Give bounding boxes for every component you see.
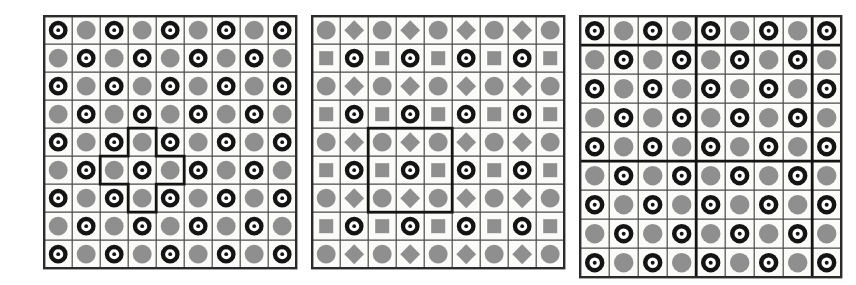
cell-ring-dot-r4-c8 — [245, 105, 264, 124]
cell-ring-dot-r3-c1 — [49, 77, 68, 96]
cell-gray-circle-r4-c9 — [273, 105, 292, 124]
cell-gray-circle-r7-c9 — [541, 189, 560, 208]
cell-gray-circle-r6-c7 — [759, 166, 778, 185]
cell-gray-circle-r8-c9 — [817, 224, 836, 243]
cell-gray-circle-r6-c1 — [49, 161, 68, 180]
cell-ring-dot-r5-c5 — [701, 137, 720, 156]
cell-gray-circle-r4-c7 — [759, 108, 778, 127]
cell-ring-dot-r1-c3 — [105, 21, 124, 40]
cell-gray-square-r2-c5 — [431, 51, 445, 65]
cell-ring-dot-r6-c8 — [513, 161, 532, 180]
cell-gray-circle-r4-c1 — [49, 105, 68, 124]
cell-ring-dot-r8-c8 — [513, 217, 532, 236]
cell-gray-circle-r7-c6 — [189, 189, 208, 208]
cell-gray-square-r2-c9 — [543, 51, 557, 65]
cell-gray-circle-r6-c7 — [217, 161, 236, 180]
cell-gray-circle-r3-c4 — [133, 77, 152, 96]
cell-gray-square-r6-c9 — [543, 163, 557, 177]
cell-gray-circle-r7-c4 — [133, 189, 152, 208]
cell-gray-circle-r4-c9 — [817, 108, 836, 127]
cell-gray-circle-r4-c7 — [217, 105, 236, 124]
cell-ring-dot-r4-c2 — [345, 105, 364, 124]
cell-gray-circle-r2-c5 — [701, 50, 720, 69]
cell-ring-dot-r4-c6 — [730, 108, 749, 127]
cell-gray-circle-r1-c7 — [485, 21, 504, 40]
cell-ring-dot-r7-c9 — [817, 195, 836, 214]
cell-gray-circle-r1-c8 — [788, 21, 807, 40]
cell-ring-dot-r1-c3 — [643, 21, 662, 40]
cell-ring-dot-r2-c4 — [672, 50, 691, 69]
cell-gray-circle-r5-c9 — [541, 133, 560, 152]
cell-gray-circle-r7-c8 — [245, 189, 264, 208]
cell-gray-circle-r9-c8 — [788, 253, 807, 272]
cell-gray-circle-r5-c5 — [429, 133, 448, 152]
cell-gray-circle-r2-c1 — [49, 49, 68, 68]
cell-ring-dot-r6-c4 — [401, 161, 420, 180]
cell-ring-dot-r3-c3 — [643, 79, 662, 98]
cell-gray-circle-r4-c5 — [161, 105, 180, 124]
cell-gray-circle-r2-c3 — [643, 50, 662, 69]
cell-gray-square-r6-c5 — [431, 163, 445, 177]
panel-left — [42, 14, 298, 270]
cell-ring-dot-r9-c5 — [701, 253, 720, 272]
cell-ring-dot-r9-c5 — [161, 245, 180, 264]
cell-gray-circle-r7-c6 — [730, 195, 749, 214]
cell-ring-dot-r8-c2 — [77, 217, 96, 236]
cell-gray-circle-r2-c7 — [217, 49, 236, 68]
cell-gray-circle-r5-c2 — [614, 137, 633, 156]
cell-layer — [585, 21, 836, 272]
cell-gray-circle-r5-c6 — [189, 133, 208, 152]
cell-ring-dot-r2-c8 — [788, 50, 807, 69]
cell-gray-circle-r7-c8 — [788, 195, 807, 214]
cell-gray-circle-r9-c4 — [133, 245, 152, 264]
cell-gray-square-r4-c1 — [319, 107, 333, 121]
cell-gray-square-r6-c7 — [487, 163, 501, 177]
cell-ring-dot-r3-c7 — [217, 77, 236, 96]
cell-gray-circle-r1-c1 — [317, 21, 336, 40]
cell-ring-dot-r4-c6 — [457, 105, 476, 124]
cell-ring-dot-r5-c9 — [817, 137, 836, 156]
cell-gray-circle-r3-c5 — [429, 77, 448, 96]
cell-gray-circle-r2-c3 — [105, 49, 124, 68]
cell-ring-dot-r3-c9 — [273, 77, 292, 96]
cell-gray-circle-r6-c3 — [105, 161, 124, 180]
cell-gray-circle-r6-c9 — [273, 161, 292, 180]
cell-gray-circle-r4-c1 — [585, 108, 604, 127]
cell-gray-circle-r3-c7 — [485, 77, 504, 96]
cell-gray-circle-r2-c1 — [585, 50, 604, 69]
cell-gray-circle-r1-c2 — [77, 21, 96, 40]
cell-ring-dot-r3-c5 — [701, 79, 720, 98]
cell-ring-dot-r4-c2 — [77, 105, 96, 124]
cell-ring-dot-r4-c4 — [401, 105, 420, 124]
cell-ring-dot-r2-c6 — [457, 49, 476, 68]
cell-ring-dot-r9-c7 — [759, 253, 778, 272]
cell-ring-dot-r8-c8 — [245, 217, 264, 236]
cell-gray-circle-r9-c3 — [373, 245, 392, 264]
cell-gray-circle-r7-c3 — [373, 189, 392, 208]
cell-gray-circle-r3-c4 — [672, 79, 691, 98]
cell-gray-circle-r9-c5 — [429, 245, 448, 264]
cell-ring-dot-r8-c2 — [614, 224, 633, 243]
cell-gray-circle-r4-c3 — [105, 105, 124, 124]
cell-gray-circle-r9-c1 — [317, 245, 336, 264]
cell-ring-dot-r1-c7 — [759, 21, 778, 40]
cell-ring-dot-r8-c4 — [401, 217, 420, 236]
cell-gray-square-r2-c1 — [319, 51, 333, 65]
cell-gray-square-r8-c9 — [543, 219, 557, 233]
cell-gray-circle-r7-c4 — [672, 195, 691, 214]
cell-gray-circle-r9-c9 — [541, 245, 560, 264]
cell-ring-dot-r8-c4 — [133, 217, 152, 236]
figure-root — [0, 0, 856, 285]
panel-middle — [310, 14, 566, 270]
panel-right — [578, 14, 843, 279]
cell-ring-dot-r4-c6 — [189, 105, 208, 124]
cell-gray-circle-r9-c6 — [189, 245, 208, 264]
cell-ring-dot-r7-c7 — [759, 195, 778, 214]
cell-gray-circle-r2-c9 — [817, 50, 836, 69]
cell-gray-circle-r8-c5 — [701, 224, 720, 243]
cell-ring-dot-r3-c5 — [161, 77, 180, 96]
cell-ring-dot-r8-c2 — [345, 217, 364, 236]
cell-gray-circle-r5-c8 — [788, 137, 807, 156]
cell-gray-circle-r9-c7 — [485, 245, 504, 264]
cell-ring-dot-r8-c8 — [788, 224, 807, 243]
